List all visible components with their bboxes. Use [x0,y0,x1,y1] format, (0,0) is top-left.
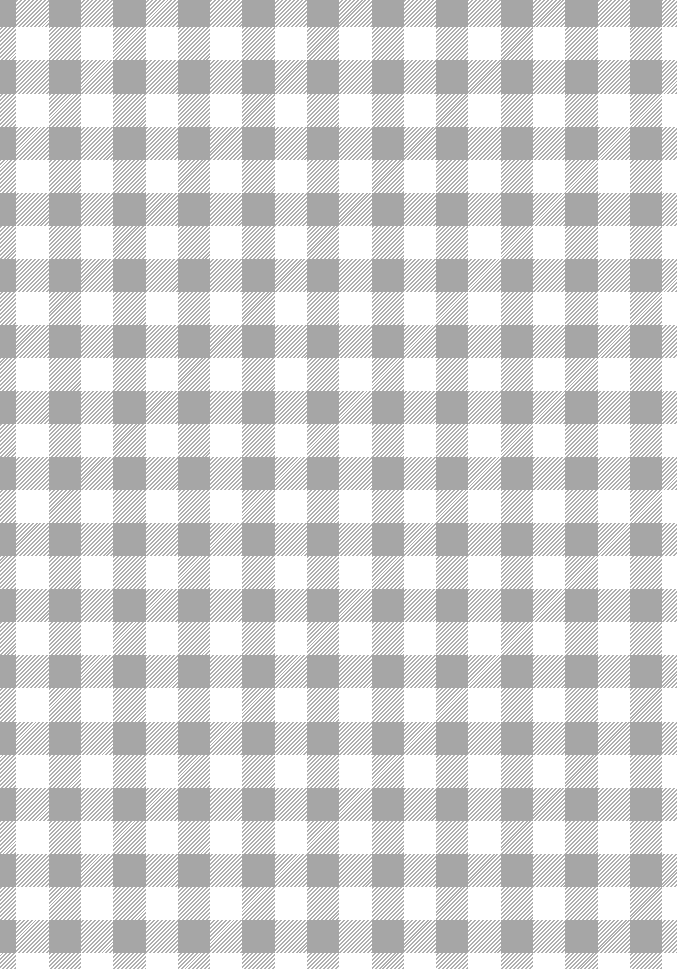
solid-grey-intersections [0,0,677,969]
gingham-fabric-pattern: gingham-check [0,0,677,969]
